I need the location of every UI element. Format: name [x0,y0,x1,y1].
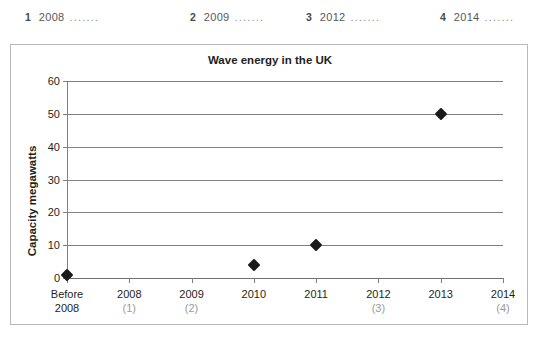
y-axis-tick-mark [63,81,67,82]
x-axis-tick-mark [378,278,379,283]
y-axis-tick-label: 0 [54,272,60,284]
x-label-main: 2011 [304,288,328,300]
x-axis-tick-label: 2014(4) [491,287,515,315]
x-label-main: 2014 [491,288,515,300]
y-axis-tick-label: 40 [48,141,60,153]
answer-year: 2009 [204,11,230,23]
x-label-annotation: (4) [491,301,515,315]
data-point-marker [310,239,323,252]
x-label-annotation: (2) [179,301,203,315]
gridline [67,180,503,181]
y-axis-tick-label: 20 [48,206,60,218]
x-axis-tick-mark [503,278,504,283]
answer-number: 2 [190,11,196,23]
answer-number: 1 [25,11,31,23]
x-axis-tick-mark [254,278,255,283]
plot-area: 0102030405060 [67,81,503,278]
x-axis-tick-label: 2010 [242,287,266,301]
y-axis-tick-label: 30 [48,174,60,186]
chart-container: Wave energy in the UK Capacity megawatts… [10,44,528,325]
answer-number: 4 [440,11,446,23]
y-axis-title: Capacity megawatts [26,111,38,291]
answer-item[interactable]: 4 2014 ....... [440,11,514,23]
answer-year: 2008 [39,11,65,23]
x-label-main: Before [51,288,83,300]
x-axis-tick-label: 2013 [428,287,452,301]
x-label-annotation: (1) [117,301,141,315]
chart-title: Wave energy in the UK [11,54,529,66]
gridline [67,81,503,82]
answer-blanks-row: 1 2008 ....... 2 2009 ....... 3 2012 ...… [0,0,541,38]
answer-dotted-line: ....... [485,11,515,23]
answer-dotted-line: ....... [70,11,100,23]
answer-year: 2012 [320,11,346,23]
x-axis-tick-label: 2009(2) [179,287,203,315]
gridline [67,278,503,279]
answer-dotted-line: ....... [235,11,265,23]
x-label-annotation: (3) [366,301,390,315]
y-axis-tick-label: 10 [48,239,60,251]
answer-number: 3 [306,11,312,23]
answer-item[interactable]: 1 2008 ....... [25,11,99,23]
y-axis-tick-label: 60 [48,75,60,87]
y-axis-tick-mark [63,212,67,213]
x-label-main: 2013 [428,288,452,300]
data-point-marker [61,268,74,281]
gridline [67,212,503,213]
answer-dotted-line: ....... [351,11,381,23]
x-axis-tick-label: 2008(1) [117,287,141,315]
gridline [67,245,503,246]
x-axis-tick-mark [192,278,193,283]
answer-year: 2014 [454,11,480,23]
gridline [67,147,503,148]
x-label-main: 2012 [366,288,390,300]
x-axis-tick-label: 2011 [304,287,328,301]
x-axis-tick-mark [129,278,130,283]
y-axis-tick-label: 50 [48,108,60,120]
answer-item[interactable]: 2 2009 ....... [190,11,264,23]
data-point-marker [247,258,260,271]
data-point-marker [434,107,447,120]
x-label-main: 2009 [179,288,203,300]
x-axis-tick-label: Before2008 [51,287,83,315]
y-axis-tick-mark [63,180,67,181]
x-axis-tick-mark [316,278,317,283]
y-axis-tick-mark [63,114,67,115]
y-axis-tick-mark [63,147,67,148]
x-label-main: 2008 [117,288,141,300]
x-axis-tick-mark [441,278,442,283]
x-label-sub: 2008 [51,301,83,315]
answer-item[interactable]: 3 2012 ....... [306,11,380,23]
x-axis-tick-label: 2012(3) [366,287,390,315]
x-label-main: 2010 [242,288,266,300]
y-axis-tick-mark [63,245,67,246]
